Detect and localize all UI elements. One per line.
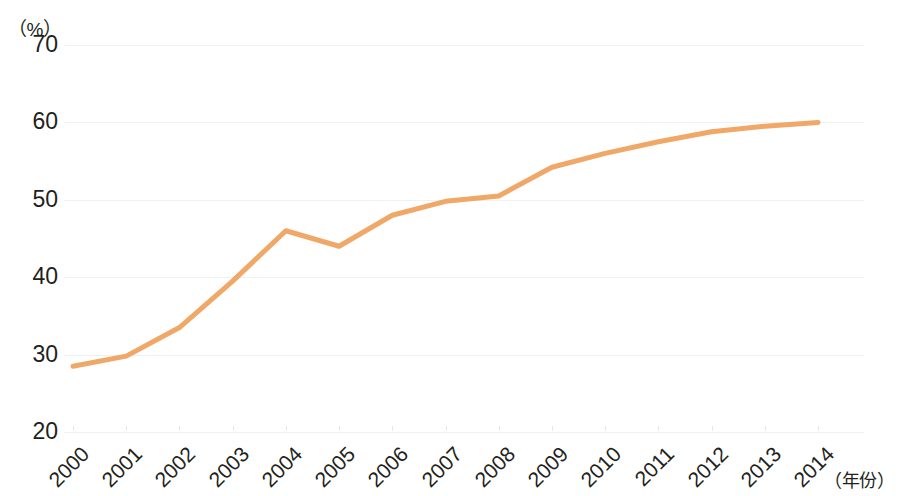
x-axis-tick-mark <box>499 426 500 431</box>
x-axis-tick-label: 2012 <box>672 442 733 496</box>
series-line <box>64 45 864 432</box>
x-axis-tick-label: 2007 <box>406 442 467 496</box>
x-axis-tick-mark <box>552 426 553 431</box>
x-axis-tick-mark <box>286 426 287 431</box>
x-axis-tick-label: 2005 <box>299 442 360 496</box>
plot-area <box>64 45 864 432</box>
y-axis-tick-label: 40 <box>12 265 58 288</box>
x-axis-tick-label: 2008 <box>459 442 520 496</box>
x-axis-tick-label: 2010 <box>565 442 626 496</box>
x-axis-tick-mark <box>658 426 659 431</box>
y-axis-tick-label: 60 <box>12 110 58 133</box>
y-axis-tick-label: 50 <box>12 188 58 211</box>
x-axis-tick-mark <box>339 426 340 431</box>
x-axis-tick-mark <box>233 426 234 431</box>
y-axis-tick-label: 30 <box>12 343 58 366</box>
x-axis-unit-label: （年份） <box>824 466 894 492</box>
series-polyline <box>73 122 818 366</box>
x-axis-tick-label: 2004 <box>246 442 307 496</box>
y-axis-tick-labels: 203040506070 <box>0 0 58 496</box>
x-axis-tick-label: 2011 <box>619 442 680 496</box>
y-axis-tick-label: 70 <box>12 33 58 56</box>
x-axis-tick-mark <box>392 426 393 431</box>
x-axis-tick-mark <box>605 426 606 431</box>
x-axis-tick-label: 2002 <box>140 442 201 496</box>
x-axis-tick-label: 2000 <box>33 442 94 496</box>
x-axis-tick-label: 2013 <box>725 442 786 496</box>
x-axis-tick-mark <box>818 426 819 431</box>
line-chart: （%） 203040506070 20002001200220032004200… <box>0 0 911 496</box>
x-axis-tick-label: 2001 <box>86 442 147 496</box>
x-axis-tick-label: 2003 <box>193 442 254 496</box>
x-axis-tick-mark <box>765 426 766 431</box>
x-axis-tick-labels: 2000200120022003200420052006200720082009… <box>0 432 911 496</box>
x-axis-tick-mark <box>73 426 74 431</box>
x-axis-tick-mark <box>179 426 180 431</box>
x-axis-tick-mark <box>446 426 447 431</box>
x-axis-tick-mark <box>126 426 127 431</box>
x-axis-tick-label: 2009 <box>512 442 573 496</box>
x-axis-tick-mark <box>712 426 713 431</box>
x-axis-tick-label: 2006 <box>352 442 413 496</box>
